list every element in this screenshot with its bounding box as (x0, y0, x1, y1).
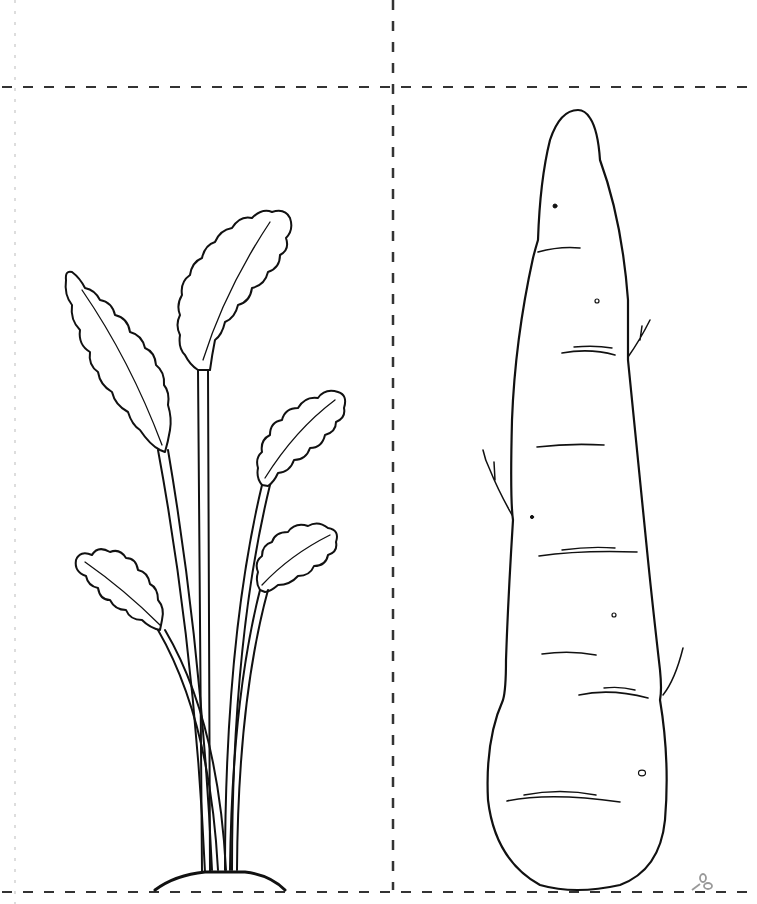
carrot-leaves-drawing (66, 211, 346, 890)
scissors-icon (692, 874, 712, 890)
cut-lines (2, 0, 757, 892)
coloring-page (0, 0, 757, 904)
carrot-root-drawing (483, 110, 683, 890)
